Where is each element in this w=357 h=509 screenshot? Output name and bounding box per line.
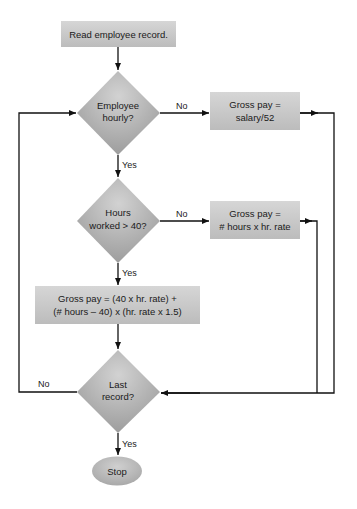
terminal-stop: Stop — [92, 457, 142, 486]
svg-text:Stop: Stop — [107, 466, 127, 477]
process-overtime-pay: Gross pay = (40 x hr. rate) + (# hours –… — [35, 286, 200, 324]
svg-text:worked > 40?: worked > 40? — [88, 220, 146, 231]
edge-label-hourly-no: No — [176, 101, 188, 111]
edge-label-last-no: No — [38, 379, 50, 389]
svg-text:hourly?: hourly? — [102, 112, 133, 123]
svg-text:Employee: Employee — [97, 100, 139, 111]
svg-text:salary/52: salary/52 — [236, 112, 275, 123]
svg-text:Last: Last — [109, 379, 127, 390]
decision-last-record: Last record? — [77, 350, 160, 433]
edge-label-last-yes: Yes — [122, 439, 137, 449]
svg-text:Hours: Hours — [105, 207, 131, 218]
node-read-record: Read employee record. — [61, 21, 176, 47]
process-regular-pay: Gross pay = # hours x hr. rate — [210, 201, 300, 239]
svg-text:Gross pay =: Gross pay = — [229, 208, 281, 219]
svg-text:(# hours – 40) x (hr. rate x 1: (# hours – 40) x (hr. rate x 1.5) — [53, 306, 181, 317]
edge-label-over40-yes: Yes — [122, 268, 137, 278]
process-salary-pay: Gross pay = salary/52 — [210, 92, 300, 130]
svg-text:# hours x hr. rate: # hours x hr. rate — [219, 221, 290, 232]
svg-text:Gross pay =: Gross pay = — [229, 99, 281, 110]
decision-hours-over-40: Hours worked > 40? — [77, 178, 160, 263]
arrow-last-no-loop — [19, 113, 77, 392]
svg-text:Gross pay = (40 x hr. rate) +: Gross pay = (40 x hr. rate) + — [58, 293, 177, 304]
node-read-record-text: Read employee record. — [69, 29, 168, 40]
edge-label-hourly-yes: Yes — [122, 160, 137, 170]
edge-label-over40-no: No — [176, 209, 188, 219]
decision-employee-hourly: Employee hourly? — [77, 71, 160, 155]
arrow-salary-to-last — [161, 113, 334, 393]
flowchart-canvas: No Yes No Yes No Yes Read employee recor… — [0, 0, 357, 509]
svg-text:record?: record? — [102, 391, 134, 402]
arrow-regular-to-last — [300, 221, 317, 393]
